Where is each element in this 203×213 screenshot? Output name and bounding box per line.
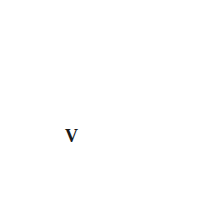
letter-v-glyph: V (65, 127, 78, 145)
page-canvas: V (0, 0, 203, 213)
